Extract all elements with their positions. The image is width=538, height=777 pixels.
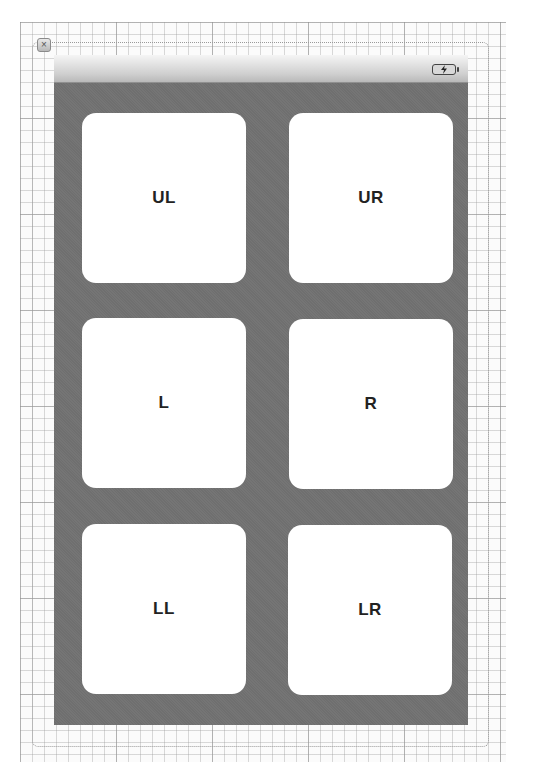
tile-label: L [159,393,170,413]
tile-left[interactable]: L [82,318,246,488]
tile-label: UL [152,188,176,208]
close-icon[interactable]: × [37,38,51,52]
status-bar [54,55,468,83]
tile-lower-right[interactable]: LR [288,525,452,695]
tile-label: UR [358,188,384,208]
lightning-bolt-icon [439,65,449,74]
device-view: UL UR L R LL LR [54,55,468,725]
tile-lower-left[interactable]: LL [82,524,246,694]
tile-label: LR [358,600,382,620]
tile-right[interactable]: R [289,319,453,489]
tile-upper-right[interactable]: UR [289,113,453,283]
tile-label: LL [153,599,175,619]
battery-charging-icon [432,64,456,75]
tile-upper-left[interactable]: UL [82,113,246,283]
tile-label: R [365,394,378,414]
